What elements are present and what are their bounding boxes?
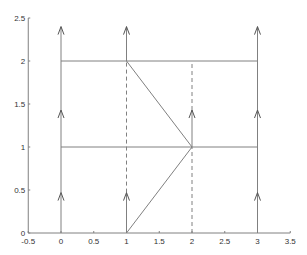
y-tick-label: 0 bbox=[21, 229, 26, 238]
y-tick-label: 0.5 bbox=[14, 186, 26, 195]
x-tick-label: 1.5 bbox=[154, 237, 166, 246]
x-tick-label: 3 bbox=[255, 237, 260, 246]
y-tick-label: 2.5 bbox=[14, 14, 26, 23]
solid-segment bbox=[127, 61, 193, 147]
diagram-figure: -0.500.511.522.533.500.511.522.5 bbox=[0, 0, 307, 255]
solid-segment bbox=[127, 147, 193, 233]
y-tick-label: 1 bbox=[21, 143, 26, 152]
x-tick-label: 0.5 bbox=[88, 237, 100, 246]
x-tick-label: -0.5 bbox=[21, 237, 35, 246]
x-tick-label: 1 bbox=[124, 237, 129, 246]
x-tick-label: 0 bbox=[59, 237, 64, 246]
y-tick-label: 2 bbox=[21, 57, 26, 66]
solid-lines bbox=[61, 27, 258, 233]
x-tick-label: 2.5 bbox=[219, 237, 231, 246]
axes bbox=[28, 18, 290, 233]
x-tick-label: 2 bbox=[190, 237, 195, 246]
arrowheads bbox=[58, 27, 261, 201]
axis-ticks: -0.500.511.522.533.500.511.522.5 bbox=[14, 14, 296, 246]
x-tick-label: 3.5 bbox=[285, 237, 297, 246]
y-tick-label: 1.5 bbox=[14, 100, 26, 109]
